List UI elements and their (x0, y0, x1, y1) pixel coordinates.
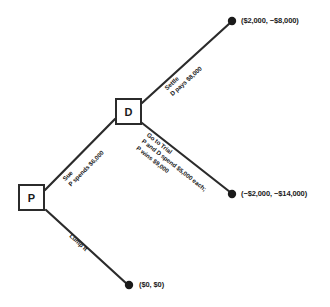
decision-node-p-label: P (28, 192, 35, 204)
decision-node-p[interactable]: P (18, 184, 45, 211)
payoff-lump: ($0, $0) (139, 280, 164, 289)
decision-node-d-label: D (125, 106, 133, 118)
terminal-dot-trial (228, 190, 236, 198)
payoff-settle: ($2,000, −$8,000) (241, 16, 299, 25)
terminal-dot-lump (125, 281, 133, 289)
edge-line-settle (142, 23, 230, 103)
payoff-trial: (−$2,000, −$14,000) (241, 189, 307, 198)
decision-node-d[interactable]: D (115, 98, 142, 125)
terminal-dot-settle (228, 17, 236, 25)
